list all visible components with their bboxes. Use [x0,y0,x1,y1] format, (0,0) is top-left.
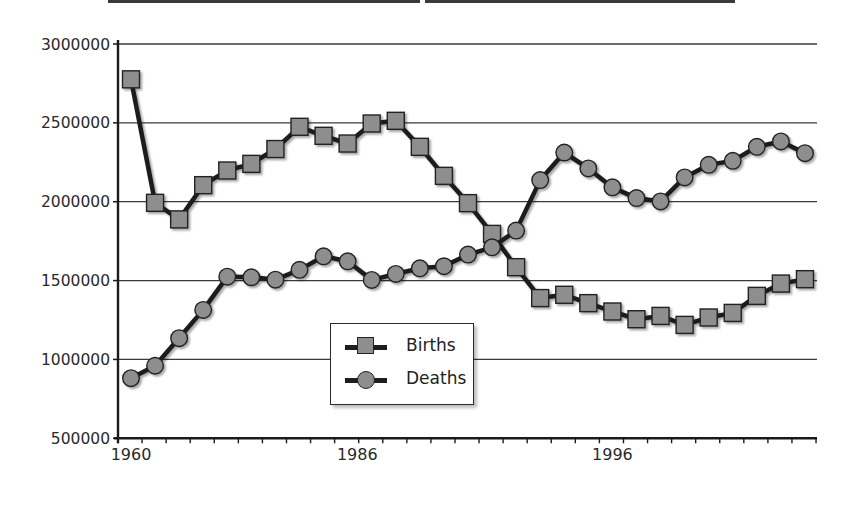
y-tick-label: 2000000 [41,193,110,211]
y-tick-label: 500000 [51,430,110,448]
circle-marker-icon [508,222,525,239]
circle-marker-icon [436,258,453,275]
square-marker-icon [171,211,188,228]
circle-marker-icon [219,268,236,285]
circle-marker-icon [676,169,693,186]
y-axis: 5000001000000150000020000002500000300000… [41,36,118,448]
circle-marker-icon [195,302,212,319]
y-tick-label: 3000000 [41,36,110,54]
square-marker-icon [724,304,741,321]
circle-marker-icon [628,190,645,207]
square-marker-icon [652,307,669,324]
circle-marker-icon [387,266,404,283]
circle-marker-icon [484,239,501,256]
circle-marker-icon [460,246,477,263]
circle-marker-icon [652,193,669,210]
square-marker-icon [387,112,404,129]
circle-marker-icon [291,262,308,279]
y-tick-label: 1500000 [41,272,110,290]
line-chart: 5000001000000150000020000002500000300000… [0,0,841,506]
legend-label: Births [406,335,456,355]
circle-marker-icon [267,271,284,288]
square-marker-icon [357,337,374,354]
square-marker-icon [459,195,476,212]
x-tick-label: 1996 [592,445,633,464]
circle-marker-icon [749,139,766,156]
circle-marker-icon [123,370,140,387]
circle-marker-icon [412,260,429,277]
circle-marker-icon [724,153,741,170]
square-marker-icon [676,316,693,333]
circle-marker-icon [315,248,332,265]
circle-marker-icon [363,272,380,289]
circle-marker-icon [604,179,621,196]
circle-marker-icon [773,133,790,150]
square-marker-icon [243,155,260,172]
square-marker-icon [580,295,597,312]
square-marker-icon [748,287,765,304]
circle-marker-icon [532,172,549,189]
circle-marker-icon [556,144,573,161]
square-marker-icon [339,135,356,152]
x-axis: 196019861996 [111,438,817,464]
circle-marker-icon [357,371,375,389]
y-tick-label: 2500000 [41,114,110,132]
legend-item-deaths: Deaths [331,366,473,396]
x-tick-label: 1960 [111,445,152,464]
circle-marker-icon [580,160,597,177]
square-marker-icon [267,141,284,158]
square-marker-icon [796,271,813,288]
square-marker-icon [195,177,212,194]
legend-label: Deaths [406,368,466,388]
y-tick-label: 1000000 [41,351,110,369]
circle-marker-icon [797,145,814,162]
square-marker-icon [363,115,380,132]
square-marker-icon [556,286,573,303]
square-marker-icon [604,303,621,320]
circle-marker-icon [147,357,164,374]
square-marker-icon [315,127,332,144]
square-marker-icon [772,275,789,292]
square-marker-icon [219,162,236,179]
square-marker-icon [532,290,549,307]
square-marker-icon [147,194,164,211]
circle-marker-icon [339,253,356,270]
legend-item-births: Births [331,333,473,363]
square-marker-icon [628,311,645,328]
square-marker-icon [291,118,308,135]
circle-marker-icon [700,157,717,174]
x-tick-label: 1986 [337,445,378,464]
circle-marker-icon [171,330,188,347]
circle-marker-icon [243,269,260,286]
square-marker-icon [411,138,428,155]
square-marker-icon [508,259,525,276]
square-marker-icon [435,167,452,184]
legend: Births Deaths [330,323,474,405]
square-marker-icon [123,71,140,88]
square-marker-icon [700,309,717,326]
